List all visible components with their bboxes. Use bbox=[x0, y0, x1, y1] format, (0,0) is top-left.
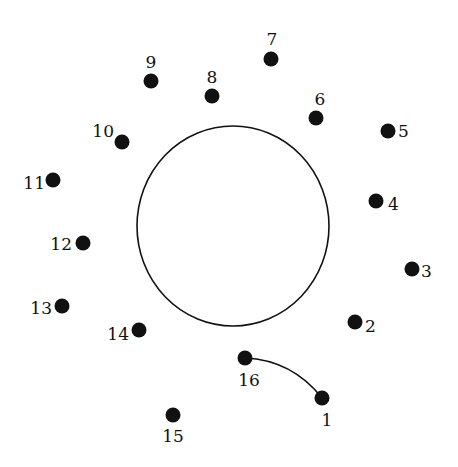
dot-number-label: 12 bbox=[50, 234, 72, 254]
dot-number-label: 5 bbox=[398, 121, 409, 141]
dots-group: 12345678910111213141516 bbox=[23, 29, 431, 446]
puzzle-drawing: 12345678910111213141516 bbox=[0, 0, 458, 467]
dot-marker bbox=[238, 351, 253, 366]
dot-number-label: 9 bbox=[146, 52, 157, 72]
dot-number-label: 1 bbox=[322, 410, 333, 430]
dot-marker bbox=[115, 135, 130, 150]
dot-number-label: 16 bbox=[238, 370, 260, 390]
dot-marker bbox=[144, 74, 159, 89]
dot-number-label: 4 bbox=[388, 194, 399, 214]
dot-14: 14 bbox=[107, 323, 146, 345]
dot-15: 15 bbox=[162, 408, 184, 447]
dot-10: 10 bbox=[92, 121, 129, 150]
dot-13: 13 bbox=[30, 298, 69, 318]
dot-1: 1 bbox=[315, 391, 333, 431]
dot-number-label: 8 bbox=[207, 67, 218, 87]
dot-7: 7 bbox=[264, 29, 279, 67]
connect-the-dots-puzzle: 12345678910111213141516 bbox=[0, 0, 458, 467]
dot-number-label: 13 bbox=[30, 298, 52, 318]
dot-16: 16 bbox=[238, 351, 260, 391]
dot-marker bbox=[315, 391, 330, 406]
dot-marker bbox=[348, 315, 363, 330]
dot-marker bbox=[166, 408, 181, 423]
outline-circle bbox=[137, 126, 329, 326]
dot-number-label: 15 bbox=[162, 426, 184, 446]
dot-number-label: 10 bbox=[92, 121, 114, 141]
dot-3: 3 bbox=[405, 261, 432, 281]
dot-marker bbox=[132, 323, 147, 338]
dot-9: 9 bbox=[144, 52, 159, 89]
dot-number-label: 7 bbox=[267, 29, 278, 49]
dot-marker bbox=[264, 52, 279, 67]
dot-11: 11 bbox=[23, 173, 60, 194]
dot-12: 12 bbox=[50, 234, 90, 254]
dot-marker bbox=[381, 124, 396, 139]
dot-marker bbox=[309, 111, 324, 126]
dot-marker bbox=[369, 194, 384, 209]
dot-number-label: 11 bbox=[23, 173, 45, 193]
dot-5: 5 bbox=[381, 121, 409, 141]
dot-number-label: 3 bbox=[421, 261, 432, 281]
dot-8: 8 bbox=[205, 67, 220, 104]
dot-marker bbox=[405, 262, 420, 277]
dot-marker bbox=[55, 299, 70, 314]
dot-number-label: 6 bbox=[315, 89, 326, 109]
dot-4: 4 bbox=[369, 194, 399, 215]
dot-6: 6 bbox=[309, 89, 326, 126]
dot-marker bbox=[46, 173, 61, 188]
dot-marker bbox=[205, 89, 220, 104]
dot-marker bbox=[76, 236, 91, 251]
dot-2: 2 bbox=[348, 315, 376, 337]
dot-number-label: 2 bbox=[365, 316, 376, 336]
dot-number-label: 14 bbox=[107, 324, 129, 344]
